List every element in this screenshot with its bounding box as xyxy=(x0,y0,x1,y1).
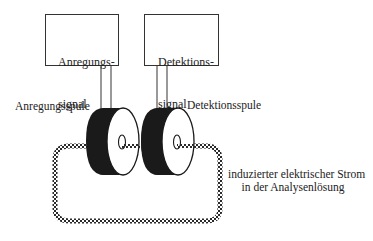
induced-current-line2: in der Analysenlösung xyxy=(228,181,358,194)
detection-signal-box: Detektions- signal xyxy=(144,14,219,66)
detection-signal-line1: Detektions- xyxy=(158,55,214,69)
detection-coil-label: Detektionsspule xyxy=(187,99,261,112)
excitation-coil-label: Anregungsspule xyxy=(15,100,90,113)
excitation-signal-label: Anregungs- signal xyxy=(58,27,115,139)
detection-signal-label: Detektions- signal xyxy=(158,27,214,139)
diagram-canvas: Anregungs- signal Detektions- signal Anr… xyxy=(0,0,373,241)
excitation-signal-box: Anregungs- signal xyxy=(45,14,119,66)
induced-current-label: induzierter elektrischer Strom in der An… xyxy=(228,168,358,194)
excitation-signal-line1: Anregungs- xyxy=(58,55,115,69)
induced-current-line1: induzierter elektrischer Strom xyxy=(228,168,358,181)
